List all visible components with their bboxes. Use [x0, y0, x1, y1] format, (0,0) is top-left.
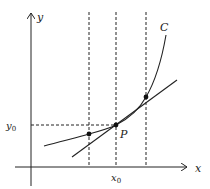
point-left: [87, 132, 92, 137]
x-axis-label: x: [195, 162, 202, 175]
point-p: [114, 123, 119, 128]
tangent-line: [72, 80, 177, 157]
y0-label: y0: [5, 120, 16, 133]
point-p-label: P: [119, 128, 128, 141]
curve-c: [44, 35, 166, 146]
curve-label: C: [160, 21, 169, 34]
tangent-diagram: y x C P x0 y0: [0, 0, 210, 189]
point-right: [144, 95, 149, 100]
y-axis-label: y: [36, 11, 44, 24]
x0-label: x0: [111, 172, 121, 185]
